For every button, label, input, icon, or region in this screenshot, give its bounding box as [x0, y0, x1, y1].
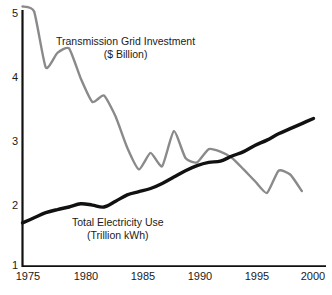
y-tick-label-3: 3	[2, 135, 18, 147]
series-annotation-unit-1: (Trillion kWh)	[72, 229, 164, 242]
series-annotation-transmission-grid-investment: Transmission Grid Investment ($ Billion)	[56, 35, 195, 61]
chart-container: 5 4 3 2 1 1975 1980 1985 1990 1995 2000 …	[0, 0, 332, 295]
series-annotation-unit-0: ($ Billion)	[56, 48, 195, 61]
series-annotation-title-1: Total Electricity Use	[72, 216, 164, 229]
y-tick-label-4: 4	[2, 71, 18, 83]
x-tick-label-1990: 1990	[180, 270, 220, 282]
y-tick-label-2: 2	[2, 199, 18, 211]
y-tick-label-5: 5	[2, 7, 18, 19]
x-tick-label-1985: 1985	[123, 270, 163, 282]
series-annotation-title-0: Transmission Grid Investment	[56, 35, 195, 48]
x-tick-label-1995: 1995	[237, 270, 277, 282]
series-annotation-total-electricity-use: Total Electricity Use (Trillion kWh)	[72, 216, 164, 242]
x-tick-label-1980: 1980	[66, 270, 106, 282]
x-tick-label-2000: 2000	[293, 270, 332, 282]
series-line-total-electricity-use	[23, 118, 314, 222]
x-tick-label-1975: 1975	[8, 270, 48, 282]
